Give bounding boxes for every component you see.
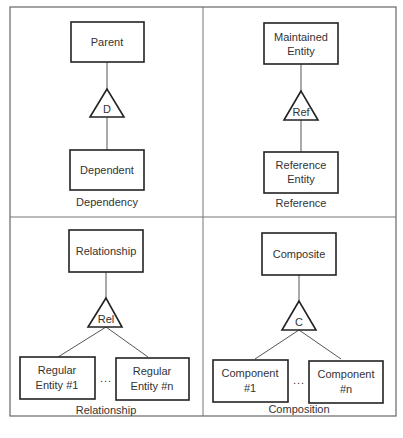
quadrant-composition: Composite C Component #1 ... Component #…: [213, 233, 383, 415]
ellipsis: ...: [293, 374, 305, 386]
quadrant-caption: Reference: [276, 197, 327, 209]
parent-label: Relationship: [76, 245, 137, 257]
triangle-label: D: [103, 103, 111, 115]
ellipsis: ...: [100, 372, 112, 384]
child-n-label-line2: #n: [340, 383, 352, 395]
diagram-canvas: Parent D Dependent Dependency Maintained…: [0, 0, 403, 438]
child-label: Dependent: [80, 164, 134, 176]
triangle-label: Rel: [98, 313, 115, 325]
quadrant-caption: Relationship: [76, 404, 137, 416]
triangle-label: C: [295, 316, 303, 328]
child-n-label-line2: Entity #n: [131, 380, 174, 392]
triangle-label: Ref: [292, 106, 310, 118]
parent-label-line1: Maintained: [274, 31, 328, 43]
child-1-label-line1: Component: [222, 367, 279, 379]
child-n-label-line1: Component: [318, 368, 375, 380]
parent-label: Composite: [273, 248, 326, 260]
maintained-entity-box: [264, 23, 338, 64]
quadrant-dependency: Parent D Dependent Dependency: [70, 22, 144, 208]
quadrant-caption: Dependency: [76, 196, 138, 208]
parent-label-line2: Entity: [287, 45, 315, 57]
quadrant-caption: Composition: [268, 403, 329, 415]
child-label-line2: Entity: [287, 173, 315, 185]
quadrant-reference: Maintained Entity Ref Reference Entity R…: [264, 23, 338, 209]
parent-label: Parent: [91, 36, 123, 48]
quadrant-relationship: Relationship Rel Regular Entity #1 ... R…: [20, 230, 189, 416]
child-1-label-line1: Regular: [38, 364, 77, 376]
child-1-label-line2: #1: [244, 382, 256, 394]
child-label-line1: Reference: [276, 159, 327, 171]
child-1-label-line2: Entity #1: [36, 379, 79, 391]
child-n-label-line1: Regular: [133, 365, 172, 377]
